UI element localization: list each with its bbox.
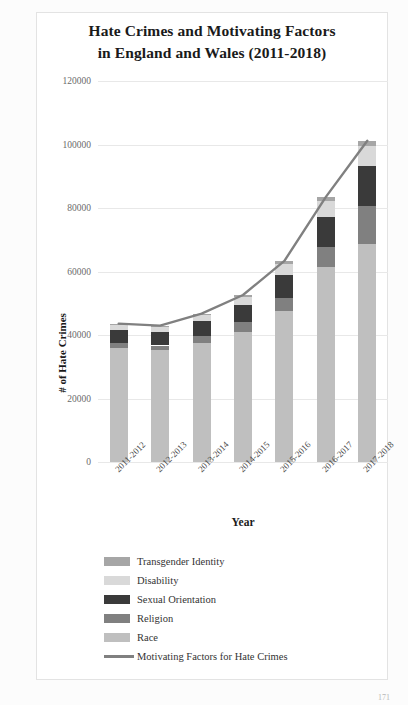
- stacked-bar[interactable]: [193, 314, 211, 462]
- legend-color-swatch: [104, 614, 130, 623]
- bar-segment[interactable]: [193, 314, 211, 316]
- bar-segment[interactable]: [234, 297, 252, 305]
- legend-item[interactable]: Sexual Orientation: [104, 590, 374, 609]
- bar-segment[interactable]: [358, 244, 376, 462]
- y-axis-tick-label: 60000: [67, 267, 91, 277]
- legend-item-label: Race: [137, 632, 158, 643]
- plot-area: 020000400006000080000100000120000 2011-2…: [98, 81, 388, 462]
- y-axis-tick-label: 120000: [63, 76, 92, 86]
- bar-segment[interactable]: [317, 267, 335, 462]
- legend-item[interactable]: Disability: [104, 571, 374, 590]
- bar-segment[interactable]: [193, 336, 211, 343]
- bar-segment[interactable]: [234, 295, 252, 297]
- legend-item-label: Disability: [137, 575, 178, 586]
- bar-segment[interactable]: [358, 141, 376, 146]
- chart-legend: Transgender IdentityDisabilitySexual Ori…: [104, 552, 374, 666]
- bar-segment[interactable]: [234, 305, 252, 322]
- stacked-bar[interactable]: [358, 141, 376, 462]
- bar-segment[interactable]: [110, 348, 128, 462]
- legend-color-swatch: [104, 576, 130, 585]
- stacked-bar[interactable]: [317, 197, 335, 462]
- bar-segment[interactable]: [110, 325, 128, 330]
- bar-segment[interactable]: [151, 346, 169, 351]
- bar-segment[interactable]: [317, 217, 335, 247]
- legend-item-label: Religion: [137, 613, 173, 624]
- legend-color-swatch: [104, 633, 130, 642]
- bar-segment[interactable]: [151, 350, 169, 462]
- bar-segment[interactable]: [275, 264, 293, 275]
- y-axis-tick-label: 0: [86, 457, 91, 467]
- bar-segment[interactable]: [317, 197, 335, 201]
- y-axis-label: # of Hate Crimes: [56, 313, 68, 393]
- stacked-bar[interactable]: [275, 261, 293, 462]
- stacked-bar[interactable]: [151, 326, 169, 462]
- legend-line-swatch: [104, 655, 134, 658]
- bar-segment[interactable]: [110, 330, 128, 343]
- legend-item[interactable]: Religion: [104, 609, 374, 628]
- page-number: 171: [378, 693, 390, 702]
- gridline: [98, 272, 388, 273]
- bar-segment[interactable]: [275, 275, 293, 298]
- bar-segment[interactable]: [234, 322, 252, 332]
- stacked-bar[interactable]: [234, 295, 252, 462]
- stacked-bar[interactable]: [110, 324, 128, 462]
- bar-segment[interactable]: [358, 166, 376, 206]
- legend-color-swatch: [104, 595, 130, 604]
- bar-segment[interactable]: [193, 321, 211, 335]
- chart-title: Hate Crimes and Motivating Factors in En…: [36, 20, 388, 64]
- x-axis-label: Year: [98, 516, 388, 528]
- bar-segment[interactable]: [317, 247, 335, 267]
- bar-segment[interactable]: [317, 201, 335, 218]
- bar-segment[interactable]: [275, 261, 293, 264]
- y-axis-tick-label: 20000: [67, 394, 91, 404]
- legend-item-label: Sexual Orientation: [137, 594, 216, 605]
- bar-segment[interactable]: [193, 343, 211, 462]
- legend-item[interactable]: Transgender Identity: [104, 552, 374, 571]
- y-axis-tick-label: 100000: [63, 140, 92, 150]
- y-axis-tick-label: 80000: [67, 203, 91, 213]
- bar-segment[interactable]: [151, 332, 169, 345]
- chart-title-line-2: in England and Wales (2011-2018): [36, 42, 388, 64]
- gridline: [98, 145, 388, 146]
- bar-segment[interactable]: [358, 206, 376, 243]
- legend-color-swatch: [104, 557, 130, 566]
- legend-item[interactable]: Motivating Factors for Hate Crimes: [104, 647, 374, 666]
- bar-segment[interactable]: [110, 324, 128, 325]
- legend-item-label: Motivating Factors for Hate Crimes: [137, 651, 287, 662]
- chart-page: Hate Crimes and Motivating Factors in En…: [0, 0, 408, 705]
- bar-segment[interactable]: [151, 327, 169, 333]
- gridline: [98, 208, 388, 209]
- bar-segment[interactable]: [110, 343, 128, 348]
- legend-item-label: Transgender Identity: [137, 556, 224, 567]
- bar-segment[interactable]: [358, 146, 376, 166]
- y-axis-tick-label: 40000: [67, 330, 91, 340]
- bar-segment[interactable]: [275, 298, 293, 311]
- bar-segment[interactable]: [275, 311, 293, 462]
- bar-segment[interactable]: [151, 326, 169, 327]
- legend-item[interactable]: Race: [104, 628, 374, 647]
- gridline: [98, 81, 388, 82]
- chart-title-line-1: Hate Crimes and Motivating Factors: [88, 22, 335, 39]
- bar-segment[interactable]: [234, 332, 252, 462]
- bar-segment[interactable]: [193, 315, 211, 321]
